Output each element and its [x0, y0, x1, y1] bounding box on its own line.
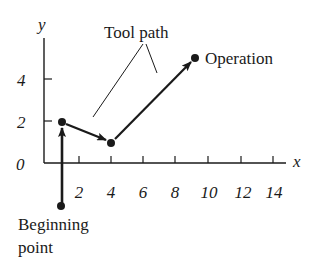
x-axis-label: x	[292, 152, 301, 171]
tool-path-diagram: y x 0 4 2 2 4 6 8 10 12 14 Tool path Ope…	[0, 0, 324, 278]
y-axis-label: y	[36, 15, 46, 34]
waypoint-1-dot	[58, 118, 66, 126]
x-tick-labels: 2 4 6 8 10 12 14	[75, 183, 283, 202]
y-tick-label-4: 4	[17, 71, 26, 90]
beginning-point-dot	[57, 202, 65, 210]
tool-path-label: Tool path	[104, 23, 169, 42]
x-ticks	[79, 156, 273, 163]
operation-point-dot	[191, 54, 199, 62]
path-segment-waypoint1-to-waypoint2	[66, 124, 106, 140]
svg-text:12: 12	[235, 183, 253, 202]
svg-text:10: 10	[201, 183, 219, 202]
tool-path-leader-1	[93, 44, 143, 117]
beginning-label-line1: Beginning	[18, 215, 89, 234]
tool-path-leader-2	[146, 44, 157, 73]
svg-text:8: 8	[171, 183, 180, 202]
waypoint-2-dot	[107, 139, 115, 147]
y-tick-label-2: 2	[17, 113, 26, 132]
origin-label: 0	[16, 155, 25, 174]
svg-text:2: 2	[75, 183, 84, 202]
svg-text:6: 6	[139, 183, 148, 202]
operation-label: Operation	[205, 49, 273, 68]
svg-text:4: 4	[107, 183, 116, 202]
svg-text:14: 14	[266, 183, 284, 202]
path-segment-waypoint2-to-operation	[115, 62, 191, 139]
beginning-label-line2: point	[18, 238, 53, 257]
